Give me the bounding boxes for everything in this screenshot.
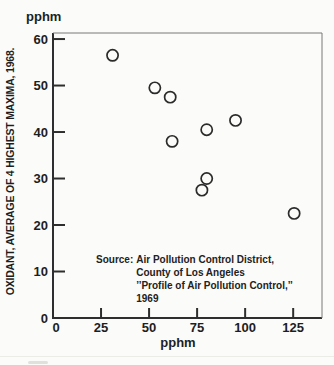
data-point [230,115,241,126]
data-point [201,124,212,135]
source-line-1: Air Pollution Control District, [136,253,293,266]
x-tick-label: 100 [234,320,256,335]
y-tick-label: 60 [34,32,48,47]
y-tick-label: 30 [34,171,48,186]
data-point [149,82,160,93]
scatter-chart-figure: pphm OXIDANT, AVERAGE OF 4 HIGHEST MAXIM… [0,0,334,365]
source-note: Source: Air Pollution Control District, … [96,253,293,305]
data-point [165,92,176,103]
x-tick-label: 75 [190,320,204,335]
x-tick-label: 0 [52,320,59,335]
scan-artifact-line [0,356,334,357]
x-axis-unit-label: pphm [138,335,218,350]
y-tick-label: 40 [34,125,48,140]
scan-artifact-smudge [28,361,48,364]
data-point [107,50,118,61]
source-line-3: ’’Profile of Air Pollution Control,’’ [136,279,293,292]
x-tick-label: 50 [142,320,156,335]
data-point [196,185,207,196]
source-line-4: 1969 [136,292,293,305]
x-tick-label: 25 [94,320,108,335]
data-point [167,136,178,147]
source-line-2: County of Los Angeles [136,266,293,279]
data-point [201,173,212,184]
y-tick-label: 20 [34,218,48,233]
source-label: Source: [96,253,133,305]
y-tick-label: 10 [34,264,48,279]
y-tick-label: 0 [41,311,48,326]
y-tick-label: 50 [34,78,48,93]
plot-area: 01020304050600255075100125 [0,0,334,365]
data-point [289,208,300,219]
x-tick-label: 125 [282,320,304,335]
